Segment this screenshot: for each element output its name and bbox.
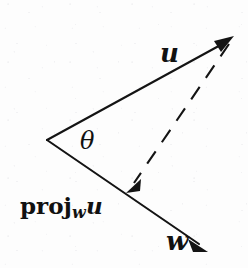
- projection-argument-text: u: [86, 192, 103, 219]
- vector-u-line: [47, 42, 226, 140]
- perpendicular-dashed-line: [134, 44, 229, 183]
- perpendicular-arrowhead: [126, 179, 141, 193]
- angle-theta-label: θ: [80, 129, 94, 153]
- projection-subscript-text: w: [72, 203, 86, 222]
- vector-projection-figure: u w θ projwu: [0, 0, 248, 268]
- projection-label: projwu: [20, 194, 103, 221]
- vector-w-label: w: [166, 228, 188, 254]
- projection-operator-text: proj: [20, 192, 72, 219]
- vector-u-label: u: [160, 40, 179, 66]
- vector-w-arrowhead: [188, 239, 208, 252]
- vector-diagram-canvas: [0, 0, 248, 268]
